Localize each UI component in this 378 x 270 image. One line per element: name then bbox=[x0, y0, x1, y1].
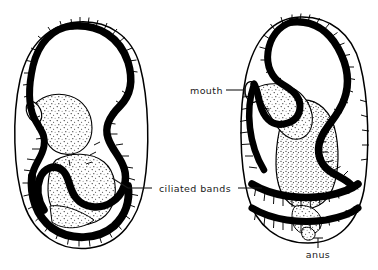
label-mouth: mouth bbox=[190, 85, 223, 96]
larva-illustration: mouth ciliated bands anus bbox=[0, 0, 378, 270]
figure-root: mouth ciliated bands anus bbox=[0, 0, 378, 270]
label-ciliated-bands: ciliated bands bbox=[159, 183, 231, 194]
right-larva bbox=[240, 14, 369, 244]
label-anus: anus bbox=[306, 249, 330, 260]
left-larva bbox=[15, 17, 148, 249]
